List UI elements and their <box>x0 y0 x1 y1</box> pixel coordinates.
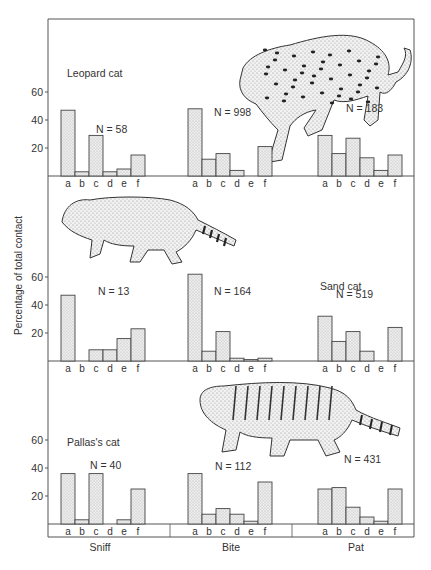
svg-text:f: f <box>264 178 267 189</box>
svg-text:N = 13: N = 13 <box>98 285 129 297</box>
svg-text:N = 519: N = 519 <box>336 288 373 300</box>
svg-text:f: f <box>137 178 140 189</box>
svg-text:a: a <box>322 178 328 189</box>
group-label-pat: Pat <box>326 541 386 553</box>
svg-text:b: b <box>206 526 212 537</box>
svg-text:f: f <box>137 363 140 374</box>
svg-text:N = 40: N = 40 <box>90 459 121 471</box>
svg-text:e: e <box>248 178 254 189</box>
svg-text:60: 60 <box>31 434 43 446</box>
svg-text:a: a <box>192 178 198 189</box>
svg-text:Pallas's cat: Pallas's cat <box>67 436 120 448</box>
svg-text:d: d <box>107 178 113 189</box>
svg-text:c: c <box>94 178 99 189</box>
group-label-sniff: Sniff <box>70 541 130 553</box>
svg-text:d: d <box>107 526 113 537</box>
chart-text: 204060Leopard catabcdefN = 58abcdefN = 9… <box>31 67 396 537</box>
figure-canvas: 204060Leopard catabcdefN = 58abcdefN = 9… <box>0 0 431 570</box>
svg-text:a: a <box>65 526 71 537</box>
svg-text:f: f <box>394 363 397 374</box>
svg-text:20: 20 <box>31 327 43 339</box>
svg-text:c: c <box>221 363 226 374</box>
svg-text:40: 40 <box>31 299 43 311</box>
svg-text:a: a <box>65 363 71 374</box>
svg-text:e: e <box>248 363 254 374</box>
svg-text:d: d <box>364 178 370 189</box>
svg-text:N = 431: N = 431 <box>344 453 381 465</box>
svg-text:c: c <box>351 526 356 537</box>
svg-text:N = 998: N = 998 <box>214 106 251 118</box>
svg-text:a: a <box>322 526 328 537</box>
svg-text:N = 112: N = 112 <box>215 460 251 472</box>
svg-text:c: c <box>221 178 226 189</box>
sand-cat-illustration <box>62 197 236 264</box>
svg-text:c: c <box>351 363 356 374</box>
svg-text:b: b <box>336 178 342 189</box>
svg-text:c: c <box>351 178 356 189</box>
svg-text:f: f <box>394 526 397 537</box>
svg-text:b: b <box>79 363 85 374</box>
svg-text:f: f <box>394 178 397 189</box>
y-axis-label: Percentage of total contact <box>13 196 24 356</box>
svg-text:b: b <box>79 178 85 189</box>
svg-text:f: f <box>264 526 267 537</box>
svg-text:d: d <box>234 526 240 537</box>
svg-text:f: f <box>137 526 140 537</box>
svg-text:b: b <box>336 363 342 374</box>
svg-text:40: 40 <box>31 462 43 474</box>
pallas-cat-illustration <box>200 383 400 457</box>
svg-text:c: c <box>94 363 99 374</box>
svg-text:a: a <box>322 363 328 374</box>
svg-text:e: e <box>121 178 127 189</box>
illustrations <box>62 35 411 456</box>
svg-text:N = 183: N = 183 <box>346 102 383 114</box>
svg-text:d: d <box>234 178 240 189</box>
svg-text:b: b <box>206 363 212 374</box>
svg-text:20: 20 <box>31 142 43 154</box>
svg-text:d: d <box>234 363 240 374</box>
svg-text:e: e <box>378 363 384 374</box>
svg-text:b: b <box>206 178 212 189</box>
svg-text:c: c <box>94 526 99 537</box>
svg-text:e: e <box>378 526 384 537</box>
svg-text:60: 60 <box>31 86 43 98</box>
svg-text:b: b <box>79 526 85 537</box>
group-label-bite: Bite <box>201 541 261 553</box>
svg-text:d: d <box>364 526 370 537</box>
svg-text:c: c <box>221 526 226 537</box>
svg-text:60: 60 <box>31 271 43 283</box>
svg-text:e: e <box>121 363 127 374</box>
svg-text:40: 40 <box>31 114 43 126</box>
svg-text:b: b <box>336 526 342 537</box>
svg-text:a: a <box>65 178 71 189</box>
svg-text:f: f <box>264 363 267 374</box>
svg-text:e: e <box>121 526 127 537</box>
svg-text:N = 164: N = 164 <box>214 285 251 297</box>
svg-text:a: a <box>192 526 198 537</box>
svg-text:N = 58: N = 58 <box>96 123 127 135</box>
svg-text:e: e <box>248 526 254 537</box>
svg-text:d: d <box>364 363 370 374</box>
svg-text:e: e <box>378 178 384 189</box>
svg-text:20: 20 <box>31 490 43 502</box>
svg-text:a: a <box>192 363 198 374</box>
svg-text:Leopard cat: Leopard cat <box>67 67 123 79</box>
svg-text:d: d <box>107 363 113 374</box>
